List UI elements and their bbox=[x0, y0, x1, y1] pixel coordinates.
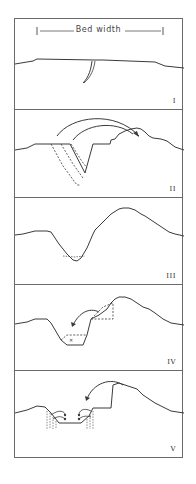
deposit-dashed bbox=[61, 335, 87, 340]
side-erosion-arrow-left-upper bbox=[51, 411, 65, 415]
panel-2-drawing bbox=[15, 110, 184, 199]
panel-label: V bbox=[170, 445, 176, 453]
panel-1: Bed width I bbox=[14, 18, 183, 110]
bed-surface-profile bbox=[15, 128, 184, 173]
panel-3: III bbox=[14, 197, 183, 285]
bed-width-label: Bed width bbox=[15, 25, 182, 34]
svg-text:✕: ✕ bbox=[69, 337, 73, 343]
panel-3-drawing bbox=[15, 198, 184, 286]
collapse-arrow bbox=[87, 381, 123, 399]
transport-arrow-outer bbox=[57, 119, 139, 136]
panel-4-drawing: ✕ bbox=[15, 285, 184, 372]
panel-label: III bbox=[166, 272, 176, 280]
bed-surface-profile bbox=[15, 208, 184, 261]
panel-label: I bbox=[173, 97, 176, 105]
bed-cross-section-figure: Bed width I II III ✕ bbox=[0, 0, 196, 484]
panel-5: V bbox=[14, 370, 183, 458]
panel-label: IV bbox=[167, 358, 176, 366]
panel-2: II bbox=[14, 109, 183, 198]
panel-4: ✕ IV bbox=[14, 284, 183, 371]
bed-surface-profile bbox=[15, 383, 184, 423]
collapse-arrow bbox=[73, 310, 99, 325]
bed-surface-profile bbox=[15, 59, 184, 68]
side-erosion-arrow-right-upper bbox=[79, 409, 91, 415]
transport-arrow-inner bbox=[73, 125, 133, 140]
failure-surface-dashed bbox=[51, 144, 80, 185]
arrowhead-icon bbox=[133, 131, 139, 137]
panel-label: II bbox=[169, 185, 176, 193]
bed-surface-profile bbox=[15, 297, 184, 345]
side-erosion-arrow-right-lower bbox=[79, 416, 91, 419]
arrowhead-icon bbox=[71, 322, 76, 327]
panel-5-drawing bbox=[15, 371, 184, 459]
